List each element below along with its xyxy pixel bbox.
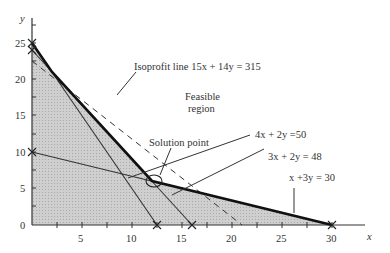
constraint1-label: 4x + 2y =50: [255, 129, 306, 140]
x-tick-label: 15: [176, 233, 187, 244]
solution-leader: [160, 148, 171, 175]
linear-programming-diagram: 5 10 15 20 25 30 x 0 5 10 15 20 25 y Iso…: [0, 0, 390, 253]
x-tick-label: 25: [276, 233, 287, 244]
feasible-region-label: Feasible: [185, 91, 220, 102]
isoprofit-leader: [117, 72, 136, 95]
isoprofit-label: Isoprofit line 15x + 14y = 315: [134, 61, 261, 72]
x-tick-label: 5: [78, 233, 83, 244]
feasible-region-label: region: [188, 103, 216, 114]
y-axis-label: y: [19, 13, 25, 24]
y-tick-label: 0: [20, 220, 25, 231]
constraint2-leader: [172, 149, 264, 195]
x-tick-label: 20: [226, 233, 237, 244]
y-tick-label: 25: [15, 38, 26, 49]
x-tick-label: 10: [126, 233, 137, 244]
y-tick-label: 20: [15, 74, 26, 85]
y-tick-label: 10: [15, 147, 26, 158]
constraint2-label: 3x + 2y = 48: [268, 151, 322, 162]
solution-point-label: Solution point: [149, 137, 209, 148]
y-tick-label: 15: [15, 110, 26, 121]
constraint3-label: x +3y = 30: [289, 172, 335, 183]
x-tick-label: 30: [326, 233, 337, 244]
y-tick-label: 5: [20, 183, 25, 194]
x-axis-label: x: [366, 231, 372, 242]
